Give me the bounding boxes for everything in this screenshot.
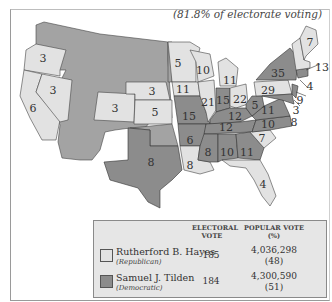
ev-kansas: 5 bbox=[152, 106, 159, 119]
ev-arkansas: 6 bbox=[187, 134, 194, 147]
ev-nevada: 3 bbox=[50, 84, 57, 97]
ev-texas: 8 bbox=[148, 156, 155, 169]
republican-swatch bbox=[100, 249, 113, 262]
ev-tennessee: 12 bbox=[219, 121, 233, 134]
ev-wisconsin: 10 bbox=[196, 64, 210, 77]
candidate-party: (Democratic) bbox=[116, 284, 162, 292]
ev-ohio: 22 bbox=[233, 93, 247, 106]
ev-new-york: 35 bbox=[271, 67, 285, 80]
ev-massachusetts: 13 bbox=[315, 61, 329, 74]
electoral-vote-header: ELECTORAL VOTE bbox=[192, 224, 232, 240]
ev-illinois: 21 bbox=[201, 96, 215, 109]
candidate-name: Samuel J. Tilden bbox=[116, 272, 194, 283]
ev-california: 6 bbox=[30, 102, 37, 115]
ev-florida: 4 bbox=[260, 178, 267, 191]
popular-vote-header: POPULAR VOTE (%) bbox=[234, 224, 314, 240]
ev-pennsylvania: 29 bbox=[261, 84, 275, 97]
ev-colorado: 3 bbox=[112, 102, 119, 115]
ev-minnesota: 5 bbox=[175, 57, 182, 70]
ev-west-virginia: 5 bbox=[252, 99, 259, 112]
results-legend: ELECTORAL VOTE POPULAR VOTE (%) Rutherfo… bbox=[93, 220, 327, 298]
ev-iowa: 11 bbox=[176, 83, 190, 96]
ev-michigan: 11 bbox=[223, 74, 237, 87]
ev-indiana: 15 bbox=[216, 94, 230, 107]
ev-connecticut: 4 bbox=[307, 80, 314, 93]
ev-louisiana: 8 bbox=[187, 159, 194, 172]
ev-missouri: 15 bbox=[182, 110, 196, 123]
ev-georgia: 11 bbox=[240, 146, 254, 159]
ev-maine: 7 bbox=[307, 36, 314, 49]
electoral-vote: 184 bbox=[196, 276, 226, 286]
popular-vote: 4,300,590 (51) bbox=[234, 271, 314, 293]
candidate-row-tilden: Samuel J. Tilden (Democratic) 184 4,300,… bbox=[94, 271, 326, 295]
ev-alabama: 10 bbox=[220, 146, 234, 159]
ev-mississippi: 8 bbox=[205, 146, 212, 159]
candidate-party: (Republican) bbox=[116, 258, 161, 266]
ev-south-carolina: 7 bbox=[259, 132, 266, 145]
state-florida bbox=[222, 160, 276, 206]
democratic-swatch bbox=[100, 275, 113, 288]
ev-oregon: 3 bbox=[40, 52, 47, 65]
ev-maryland: 8 bbox=[291, 116, 298, 129]
ev-nebraska: 3 bbox=[149, 85, 156, 98]
ev-north-carolina: 10 bbox=[261, 118, 275, 131]
ev-virginia: 11 bbox=[261, 104, 275, 117]
electoral-vote: 185 bbox=[196, 250, 226, 260]
candidate-row-hayes: Rutherford B. Hayes (Republican) 185 4,0… bbox=[94, 245, 326, 269]
popular-vote: 4,036,298 (48) bbox=[234, 245, 314, 267]
